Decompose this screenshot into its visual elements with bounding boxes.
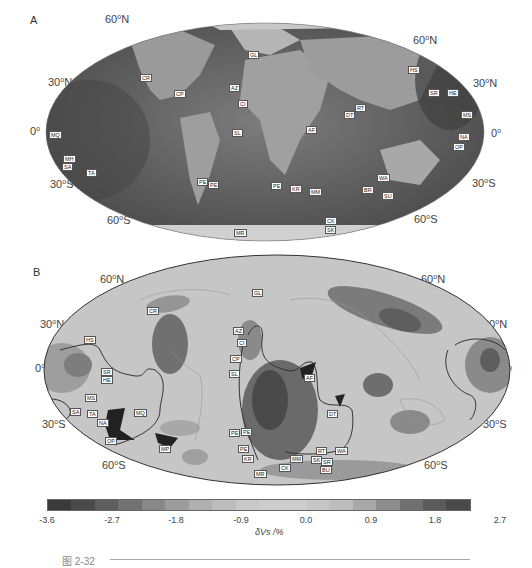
hotspot-label: GL xyxy=(252,289,263,297)
hotspot-label: PE xyxy=(241,428,252,436)
hotspot-label: CR xyxy=(147,307,159,315)
hotspot-label: RT xyxy=(316,447,327,455)
hotspot-label: MR xyxy=(254,470,267,478)
hotspot-label: MQ xyxy=(134,409,147,417)
hotspot-label: SR xyxy=(101,368,113,376)
hotspot-label: HE xyxy=(101,376,113,384)
colorbar-tick: 0.0 xyxy=(300,515,313,525)
hotspot-label: NA xyxy=(97,419,109,427)
hotspot-label: SA xyxy=(70,408,81,416)
colorbar-tick: -1.8 xyxy=(168,515,184,525)
hotspot-label: TA xyxy=(87,410,98,418)
hotspot-label: MM xyxy=(290,455,303,463)
hotspot-label: BU xyxy=(320,466,332,474)
hotspot-label: DT xyxy=(327,410,338,418)
caption-rule xyxy=(110,559,470,560)
figure-caption: 图 2-32 xyxy=(62,553,95,568)
hotspot-label: SR xyxy=(321,458,333,466)
hotspot-label: MP xyxy=(159,445,171,453)
hotspot-label: SL xyxy=(229,370,240,378)
hotspot-label: CP xyxy=(230,355,242,363)
colorbar-tick: 1.8 xyxy=(429,515,442,525)
colorbar-tick: -3.6 xyxy=(39,515,55,525)
hotspot-label: KR xyxy=(242,455,254,463)
hotspot-label: PE xyxy=(229,429,240,437)
hotspot-label: CK xyxy=(279,464,291,472)
colorbar-tick: -2.7 xyxy=(104,515,120,525)
hotspot-label: CI xyxy=(237,339,247,347)
hotspot-label: HS xyxy=(84,336,96,344)
colorbar-tick: -0.9 xyxy=(233,515,249,525)
hotspot-label: PE xyxy=(238,445,249,453)
colorbar-title: δVs /% xyxy=(255,527,284,537)
colorbar xyxy=(47,499,471,511)
hotspot-label: OP xyxy=(105,437,117,445)
tomography-map xyxy=(0,0,532,500)
hotspot-label: WA xyxy=(335,447,348,455)
hotspot-label: AZ xyxy=(233,327,244,335)
hotspot-label: AF xyxy=(304,374,315,382)
colorbar-tick: 0.9 xyxy=(365,515,378,525)
hotspot-label: MS xyxy=(85,394,97,402)
colorbar-tick: 2.7 xyxy=(494,515,507,525)
